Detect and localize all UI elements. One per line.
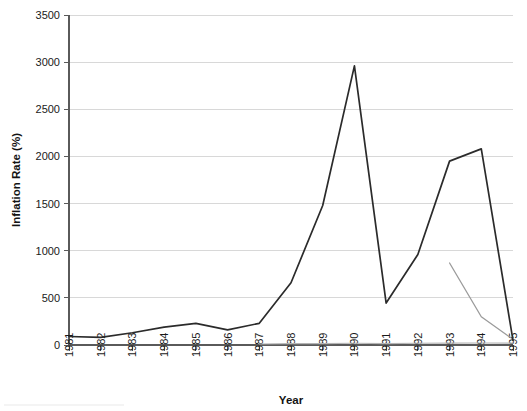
line-chart: 0500100015002000250030003500 19811982198… (0, 0, 527, 411)
y-tick-label: 0 (54, 339, 60, 351)
secondary-series-line (450, 263, 513, 339)
x-tick-label: 1994 (475, 333, 487, 357)
gridlines-group (69, 15, 513, 298)
x-tick-label: 1989 (317, 333, 329, 357)
x-tick-label: 1992 (412, 333, 424, 357)
x-tick-label: 1991 (380, 333, 392, 357)
y-axis-title: Inflation Rate (%) (10, 133, 22, 227)
y-tick-label: 3000 (36, 56, 60, 68)
y-tick-label: 500 (42, 292, 60, 304)
x-tick-label: 1988 (285, 333, 297, 357)
chart-figure: 0500100015002000250030003500 19811982198… (0, 0, 527, 411)
y-axis-ticks-group (64, 15, 69, 345)
y-tick-label: 1000 (36, 245, 60, 257)
x-axis-title: Year (279, 394, 304, 406)
y-axis-tick-labels: 0500100015002000250030003500 (36, 9, 60, 351)
y-tick-label: 2500 (36, 103, 60, 115)
scan-artifact-group (4, 404, 124, 406)
x-tick-label: 1985 (190, 333, 202, 357)
x-tick-label: 1993 (444, 333, 456, 357)
y-tick-label: 3500 (36, 9, 60, 21)
x-tick-label: 1984 (158, 333, 170, 357)
x-tick-label: 1983 (126, 333, 138, 357)
x-axis-tick-labels: 1981198219831984198519861987198819891990… (63, 333, 519, 357)
x-tick-label: 1987 (253, 333, 265, 357)
x-tick-label: 1986 (222, 333, 234, 357)
x-tick-label: 1990 (348, 333, 360, 357)
y-tick-label: 2000 (36, 150, 60, 162)
y-tick-label: 1500 (36, 198, 60, 210)
